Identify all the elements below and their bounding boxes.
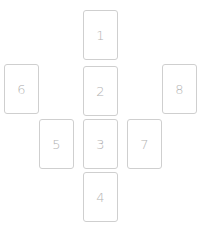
card-number: 7 xyxy=(140,138,148,151)
card-position-8[interactable]: 8 xyxy=(162,64,197,114)
card-number: 6 xyxy=(17,83,25,96)
card-position-3[interactable]: 3 xyxy=(83,119,118,169)
card-spread-layout: 1 2 3 4 5 6 7 8 xyxy=(0,0,207,230)
card-number: 1 xyxy=(96,29,104,42)
card-position-7[interactable]: 7 xyxy=(127,119,162,169)
card-position-4[interactable]: 4 xyxy=(83,172,118,222)
card-number: 4 xyxy=(96,191,104,204)
card-number: 2 xyxy=(96,85,104,98)
card-number: 3 xyxy=(96,138,104,151)
card-position-5[interactable]: 5 xyxy=(39,119,74,169)
card-position-2[interactable]: 2 xyxy=(83,66,118,116)
card-position-6[interactable]: 6 xyxy=(4,64,39,114)
card-number: 5 xyxy=(52,138,60,151)
card-position-1[interactable]: 1 xyxy=(83,10,118,60)
card-number: 8 xyxy=(175,83,183,96)
